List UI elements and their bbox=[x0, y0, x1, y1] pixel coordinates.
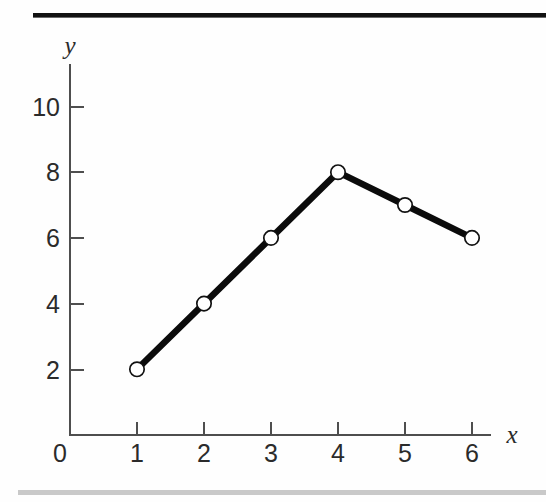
data-point-marker bbox=[264, 231, 278, 245]
data-series-line bbox=[137, 172, 472, 369]
data-point-marker bbox=[331, 165, 345, 179]
y-tick-label-2: 2 bbox=[46, 356, 60, 384]
page-rule-bottom bbox=[18, 490, 546, 495]
line-chart: 10 8 6 4 2 0 1 2 3 4 5 6 y x bbox=[0, 0, 546, 502]
x-tick-label-5: 5 bbox=[398, 439, 412, 467]
y-tick-label-8: 8 bbox=[46, 158, 60, 186]
figure-root: 10 8 6 4 2 0 1 2 3 4 5 6 y x bbox=[0, 0, 546, 502]
data-point-marker bbox=[130, 362, 144, 376]
x-tick-label-4: 4 bbox=[331, 439, 345, 467]
x-tick-label-3: 3 bbox=[264, 439, 278, 467]
x-tick-label-2: 2 bbox=[197, 439, 211, 467]
data-point-marker bbox=[465, 231, 479, 245]
x-axis-ticks bbox=[137, 422, 472, 435]
data-series-markers bbox=[130, 165, 479, 376]
data-point-marker bbox=[398, 198, 412, 212]
y-tick-label-10: 10 bbox=[32, 93, 60, 121]
x-tick-label-6: 6 bbox=[465, 439, 479, 467]
y-tick-label-6: 6 bbox=[46, 224, 60, 252]
origin-label: 0 bbox=[53, 439, 67, 467]
y-axis-title: y bbox=[61, 32, 76, 59]
y-axis-ticks bbox=[70, 107, 84, 370]
y-tick-label-4: 4 bbox=[46, 290, 60, 318]
data-point-marker bbox=[197, 296, 211, 310]
x-axis-title: x bbox=[505, 421, 517, 448]
x-tick-label-1: 1 bbox=[130, 439, 144, 467]
